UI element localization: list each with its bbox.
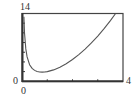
x-min-label: 0	[21, 86, 26, 96]
y-min-label: 0	[13, 76, 18, 86]
plot-area	[0, 0, 133, 99]
x-max-label: 4	[126, 76, 131, 86]
function-curve	[24, 14, 116, 72]
y-max-label: 14	[20, 2, 30, 12]
